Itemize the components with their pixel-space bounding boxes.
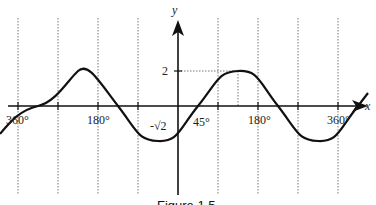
x-axis	[8, 100, 368, 112]
x-tick-360-left: 360°	[6, 113, 29, 127]
x-tick-45: 45°	[193, 115, 210, 129]
y-axis	[172, 20, 184, 195]
y-tick-2: 2	[162, 64, 168, 78]
x-tick-360-right: 360°	[327, 113, 350, 127]
figure-caption: Figure 1.5	[157, 198, 216, 205]
x-axis-label: x	[364, 99, 371, 113]
sine-curve	[0, 69, 368, 141]
x-tick-180-right: 180°	[248, 113, 271, 127]
x-tick-180-left: 180°	[87, 113, 110, 127]
sine-graph: y x 2 -√2 45° 180° 180° 360° 360° Figure…	[0, 0, 376, 205]
y-axis-label: y	[171, 3, 178, 17]
y-tick-neg-root2: -√2	[150, 119, 167, 133]
